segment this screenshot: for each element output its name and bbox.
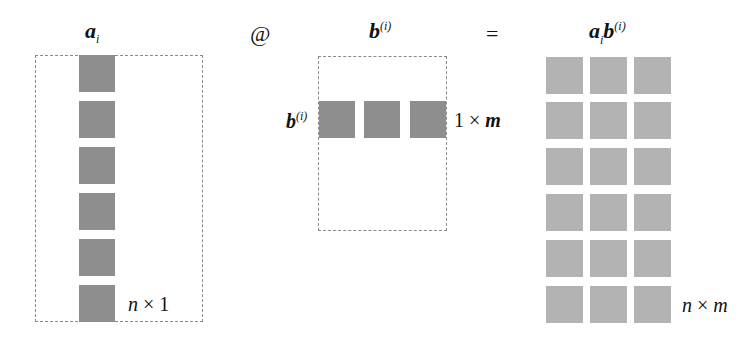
b-i-cell: [364, 101, 400, 138]
result-cell: [590, 148, 627, 185]
result-cell: [590, 102, 627, 139]
a-i-cell: [79, 55, 115, 92]
a-i-dimension: n × 1: [128, 294, 169, 314]
a-i-cell: [79, 285, 115, 322]
result-cell: [590, 57, 627, 94]
b-i-title: b(i): [369, 20, 391, 42]
result-cell: [546, 194, 583, 231]
result-cell: [634, 240, 671, 277]
equals-sign: =: [486, 23, 498, 45]
b-i-dashed-frame: [318, 56, 447, 231]
b-i-dimension: 1 × m: [454, 110, 501, 130]
result-cell: [590, 194, 627, 231]
result-dimension: n × m: [682, 295, 728, 315]
result-cell: [546, 286, 583, 323]
result-cell: [634, 102, 671, 139]
a-i-cell: [79, 239, 115, 276]
b-i-cell: [319, 101, 355, 138]
result-title: aib(i): [589, 20, 626, 46]
a-i-cell: [79, 147, 115, 184]
result-cell: [590, 240, 627, 277]
a-i-dashed-frame: [35, 55, 203, 322]
result-cell: [634, 148, 671, 185]
a-i-cell: [79, 193, 115, 230]
matmul-operator: @: [250, 23, 270, 45]
b-i-cell: [410, 101, 446, 138]
result-cell: [546, 102, 583, 139]
result-cell: [546, 240, 583, 277]
result-cell: [546, 57, 583, 94]
a-i-title: ai: [85, 20, 99, 45]
b-i-row-label: b(i): [286, 110, 307, 131]
a-i-cell: [79, 101, 115, 138]
result-cell: [634, 194, 671, 231]
result-cell: [546, 148, 583, 185]
result-cell: [634, 286, 671, 323]
result-cell: [634, 57, 671, 94]
result-cell: [590, 286, 627, 323]
